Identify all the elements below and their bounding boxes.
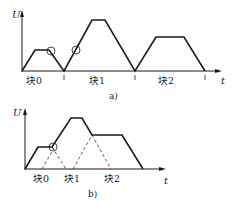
panel-a-block-label: 块0 [26, 75, 42, 86]
panel-b-block-label: 块1 [64, 173, 80, 184]
panel-a-y-label: U [12, 9, 21, 20]
panel-a-caption: a) [109, 91, 118, 101]
panel-b-y-arrow-icon [23, 108, 27, 115]
panel-b-block-label: 块0 [33, 173, 49, 184]
panel-a-velocity-curve [22, 20, 205, 71]
panel-a-block-label: 块1 [89, 75, 105, 86]
panel-b-velocity-curve [25, 118, 143, 169]
panel-b-y-label: U [13, 107, 22, 118]
panel-a-y-arrow-icon [20, 10, 24, 17]
panel-b-x-label: t [164, 175, 169, 186]
panel-a-x-arrow-icon [215, 69, 222, 73]
panel-a-block-label: 块2 [158, 75, 174, 86]
panel-b: U t 块0 块1 块2 b) [13, 107, 169, 199]
panel-b-block2-accel-dashed [73, 135, 92, 169]
panel-b-block1-decel-dashed [92, 135, 111, 169]
panel-a-x-label: t [221, 75, 226, 86]
panel-b-x-arrow-icon [159, 167, 166, 171]
velocity-profile-diagram: U t 块0 块1 块2 a) U t 块0 块1 块2 b) [0, 0, 233, 205]
panel-a: U t 块0 块1 块2 a) [12, 9, 226, 101]
panel-b-caption: b) [88, 189, 97, 199]
panel-b-block0-decel-dashed [52, 147, 66, 169]
panel-b-block-label: 块2 [104, 173, 120, 184]
